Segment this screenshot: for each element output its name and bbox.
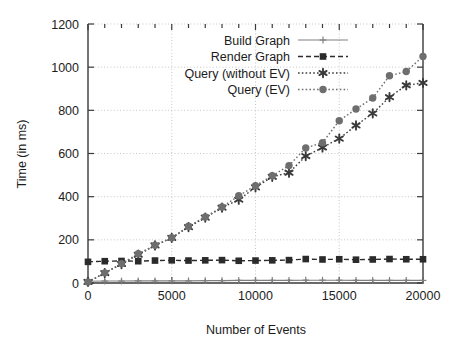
data-point-filled-square	[252, 257, 259, 264]
data-point-filled-circle	[269, 172, 276, 179]
data-point-filled-square	[219, 257, 226, 264]
data-point-filled-circle	[135, 250, 142, 257]
x-axis-title: Number of Events	[206, 323, 306, 337]
x-tick-label: 0	[85, 289, 92, 303]
y-tick-label: 1200	[51, 18, 79, 32]
data-point-filled-circle	[302, 144, 309, 151]
legend-label-0: Build Graph	[224, 34, 290, 48]
line-chart: 0200400600800100012000500010000150002000…	[0, 0, 476, 344]
data-point-filled-circle	[252, 182, 259, 189]
data-point-filled-circle	[168, 234, 175, 241]
data-point-filled-circle	[218, 203, 225, 210]
data-point-filled-square	[320, 53, 327, 60]
y-tick-label: 400	[58, 190, 79, 204]
data-point-filled-square	[369, 256, 376, 263]
data-point-filled-square	[85, 259, 92, 266]
data-point-filled-circle	[336, 117, 343, 124]
data-point-filled-circle	[84, 278, 91, 285]
data-point-filled-square	[302, 256, 309, 263]
data-point-filled-square	[185, 257, 192, 264]
data-point-filled-circle	[319, 139, 326, 146]
x-tick-label: 10000	[238, 289, 273, 303]
data-point-filled-square	[202, 257, 209, 264]
data-point-filled-square	[269, 257, 276, 264]
data-point-filled-square	[101, 258, 108, 265]
y-tick-label: 200	[58, 233, 79, 247]
data-point-filled-square	[152, 257, 159, 264]
y-tick-label: 1000	[51, 61, 79, 75]
legend-label-1: Render Graph	[211, 50, 290, 64]
y-tick-label: 600	[58, 147, 79, 161]
data-point-filled-circle	[118, 260, 125, 267]
y-tick-label: 0	[72, 277, 79, 291]
x-tick-label: 20000	[406, 289, 441, 303]
chart-container: 0200400600800100012000500010000150002000…	[0, 0, 476, 344]
data-point-filled-circle	[235, 192, 242, 199]
data-point-filled-square	[319, 256, 326, 263]
data-point-filled-square	[168, 257, 175, 264]
data-point-filled-circle	[403, 68, 410, 75]
data-point-filled-circle	[369, 94, 376, 101]
data-point-filled-square	[353, 256, 360, 263]
data-point-filled-circle	[185, 223, 192, 230]
data-point-filled-square	[403, 256, 410, 263]
y-tick-label: 800	[58, 104, 79, 118]
y-axis-title: Time (in ms)	[15, 120, 29, 189]
x-tick-label: 15000	[322, 289, 357, 303]
data-point-filled-square	[336, 256, 343, 263]
data-point-filled-circle	[352, 105, 359, 112]
data-point-filled-square	[420, 256, 427, 263]
data-point-filled-square	[235, 257, 242, 264]
data-point-filled-circle	[386, 72, 393, 79]
data-point-filled-circle	[319, 86, 326, 93]
data-point-filled-square	[286, 257, 293, 264]
data-point-filled-circle	[101, 269, 108, 276]
legend-label-2: Query (without EV)	[184, 67, 290, 81]
data-point-filled-square	[386, 256, 393, 263]
x-tick-label: 5000	[158, 289, 186, 303]
data-point-filled-circle	[151, 242, 158, 249]
data-point-filled-circle	[285, 162, 292, 169]
data-point-filled-circle	[202, 213, 209, 220]
legend-label-3: Query (EV)	[227, 83, 290, 97]
data-point-filled-circle	[419, 53, 426, 60]
